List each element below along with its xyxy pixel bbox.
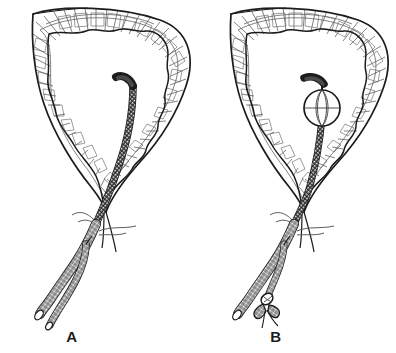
panel-label-b: B [270,328,281,345]
figure-background [0,0,396,353]
panel-label-a: A [66,328,77,345]
illustration-canvas: A [0,0,396,353]
figure-illustration: A [0,0,396,353]
